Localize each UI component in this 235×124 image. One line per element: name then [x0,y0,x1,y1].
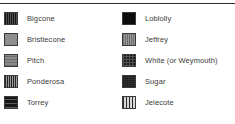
legend-top-divider [0,3,235,4]
legend-item-label: Ponderosa [27,77,64,86]
legend-item-white-weymouth[interactable]: White (or Weymouth) [118,50,235,71]
legend-item-pitch[interactable]: Pitch [0,50,118,71]
legend-item-label: Jeffrey [145,35,168,44]
legend-item-label: Sugar [145,77,166,86]
legend-item-label: Torrey [27,98,48,107]
pattern-swatch-icon [122,75,136,88]
pattern-swatch-icon [122,12,136,25]
pattern-swatch-icon [4,96,18,109]
legend-item-bigcone[interactable]: Bigcone [0,8,118,29]
legend-item-label: Jelecote [145,98,174,107]
legend-item-label: Pitch [27,56,44,65]
legend-item-bristlecone[interactable]: Bristlecone [0,29,118,50]
legend-column-right: Loblolly Jeffrey White (or Weymouth) Sug… [118,8,235,113]
pattern-swatch-icon [122,54,136,67]
legend-item-label: White (or Weymouth) [145,56,218,65]
legend-item-ponderosa[interactable]: Ponderosa [0,71,118,92]
legend-item-label: Loblolly [145,14,171,23]
legend-item-jeffrey[interactable]: Jeffrey [118,29,235,50]
legend-item-label: Bristlecone [27,35,65,44]
legend-item-label: Bigcone [27,14,55,23]
pattern-swatch-icon [4,54,18,67]
pattern-swatch-icon [4,75,18,88]
legend-panel: Bigcone Bristlecone Pitch Ponderosa Torr… [0,0,235,124]
pattern-swatch-icon [122,96,136,109]
legend-item-torrey[interactable]: Torrey [0,92,118,113]
pattern-swatch-icon [4,33,18,46]
legend-item-sugar[interactable]: Sugar [118,71,235,92]
legend-item-loblolly[interactable]: Loblolly [118,8,235,29]
legend-column-left: Bigcone Bristlecone Pitch Ponderosa Torr… [0,8,118,113]
legend-item-jelecote[interactable]: Jelecote [118,92,235,113]
pattern-swatch-icon [4,12,18,25]
pattern-swatch-icon [122,33,136,46]
legend-columns: Bigcone Bristlecone Pitch Ponderosa Torr… [0,8,235,113]
